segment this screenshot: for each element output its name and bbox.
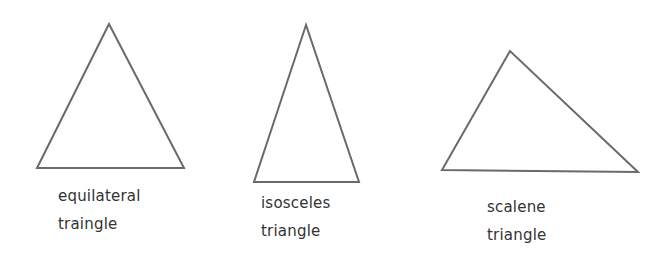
- scalene-triangle-label: scalene triangle: [487, 193, 546, 249]
- equilateral-label-line2: traingle: [58, 210, 141, 238]
- equilateral-label-line1: equilateral: [58, 182, 141, 210]
- scalene-label-line2: triangle: [487, 221, 546, 249]
- equilateral-triangle-shape: [37, 24, 184, 168]
- isosceles-triangle-label: isosceles triangle: [261, 189, 330, 245]
- triangle-types-diagram: equilateral traingle isosceles triangle …: [0, 0, 665, 266]
- isosceles-label-line2: triangle: [261, 217, 330, 245]
- equilateral-triangle-label: equilateral traingle: [58, 182, 141, 238]
- isosceles-label-line1: isosceles: [261, 189, 330, 217]
- isosceles-triangle-shape: [254, 25, 359, 182]
- scalene-triangle-shape: [442, 51, 638, 172]
- scalene-label-line1: scalene: [487, 193, 546, 221]
